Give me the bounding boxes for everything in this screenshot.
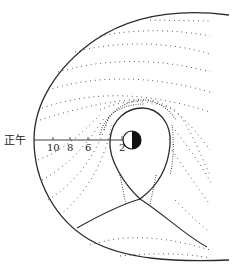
tick-label-10: 10 — [47, 143, 60, 153]
tick-label-6: 6 — [85, 143, 91, 153]
tick-label-8: 8 — [67, 143, 73, 153]
tick-label-2: 2 — [119, 143, 125, 153]
plasmapause-teardrop — [110, 108, 170, 199]
magnetosphere-diagram — [0, 0, 234, 278]
earth-night-side — [132, 131, 141, 149]
inner-lower-boundary — [77, 199, 207, 247]
axis-ticks — [53, 136, 122, 140]
noon-label: 正午 — [4, 135, 26, 146]
